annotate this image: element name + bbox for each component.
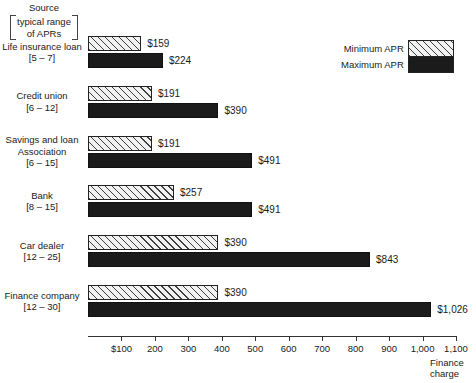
x-axis-tick: [423, 336, 424, 341]
bar-minimum-apr: [88, 136, 152, 151]
x-axis-tick: [289, 336, 290, 341]
bar-chart: Source typical range of APRs Life insura…: [0, 0, 476, 383]
bar-value-label: $191: [158, 136, 180, 151]
x-axis-tick-label: 600: [281, 343, 297, 355]
x-axis-tick: [356, 336, 357, 341]
bar-value-label: $843: [376, 252, 398, 267]
x-axis-title-line2: charge: [430, 368, 476, 379]
category-name: Savings and loan: [0, 134, 84, 146]
x-axis-tick: [222, 336, 223, 341]
legend-swatch-minimum-apr: [409, 41, 453, 57]
source-bracket-text: typical range of APRs: [16, 15, 72, 40]
source-title: Source: [0, 2, 88, 14]
category-label: Savings and loanAssociation[6 – 15]: [0, 134, 84, 169]
bar-value-label: $224: [169, 53, 191, 68]
category-name: Finance company: [0, 290, 84, 302]
x-axis-tick-label: 1,000: [411, 343, 435, 355]
x-axis-tick-label: 1,100: [444, 343, 468, 355]
x-axis-tick-label: 200: [147, 343, 163, 355]
x-axis-tick: [456, 336, 457, 341]
x-axis-tick-label: 300: [180, 343, 196, 355]
x-axis-tick: [121, 336, 122, 341]
x-axis-tick: [322, 336, 323, 341]
bar-minimum-apr: [88, 185, 174, 200]
legend: Minimum APR Maximum APR: [341, 40, 454, 73]
bar-value-label: $491: [258, 202, 280, 217]
legend-swatches: [408, 40, 454, 73]
x-axis-title: Finance charge: [430, 357, 476, 379]
category-label: Bank[8 – 15]: [0, 190, 84, 213]
bar-value-label: $191: [158, 86, 180, 101]
x-axis-tick-label: 400: [214, 343, 230, 355]
legend-label-minimum-apr: Minimum APR: [341, 41, 404, 57]
x-axis-title-line1: Finance: [430, 357, 476, 368]
x-axis-tick-label: 700: [314, 343, 330, 355]
bar-maximum-apr: [88, 103, 218, 118]
bar-maximum-apr: [88, 53, 163, 68]
bar-value-label: $159: [147, 36, 169, 51]
category-name: Car dealer: [0, 240, 84, 252]
bracket-right: [72, 15, 78, 40]
source-header: Source typical range of APRs: [0, 2, 88, 40]
category-label: Finance company[12 – 30]: [0, 290, 84, 313]
x-axis-tick-label: 900: [381, 343, 397, 355]
bar-minimum-apr: [88, 235, 218, 250]
category-apr-range: [12 – 30]: [0, 301, 84, 313]
bar-value-label: $390: [224, 285, 246, 300]
x-axis-tick-label: 500: [247, 343, 263, 355]
category-name: Bank: [0, 190, 84, 202]
bar-minimum-apr: [88, 285, 218, 300]
bar-minimum-apr: [88, 86, 152, 101]
category-apr-range: [6 – 12]: [0, 102, 84, 114]
bar-minimum-apr: [88, 36, 141, 51]
category-label: Credit union[6 – 12]: [0, 90, 84, 113]
x-axis-tick: [155, 336, 156, 341]
x-axis-tick: [188, 336, 189, 341]
bar-value-label: $390: [224, 235, 246, 250]
bar-value-label: $257: [180, 185, 202, 200]
x-axis-tick: [389, 336, 390, 341]
x-axis-line: [88, 336, 456, 337]
bar-value-label: $491: [258, 153, 280, 168]
legend-labels: Minimum APR Maximum APR: [341, 41, 404, 73]
category-label: Car dealer[12 – 25]: [0, 240, 84, 263]
plot-area: $159$224$191$390$191$491$257$491$390$843…: [88, 36, 476, 336]
category-apr-range: [5 – 7]: [0, 52, 84, 64]
category-name: Life insurance loan: [0, 41, 84, 53]
x-axis-tick-label: 800: [348, 343, 364, 355]
category-apr-range: [12 – 25]: [0, 251, 84, 263]
category-name: Association: [0, 146, 84, 158]
source-bracket-group: typical range of APRs: [0, 15, 88, 40]
category-apr-range: [8 – 15]: [0, 201, 84, 213]
source-bracket-line1: typical range: [17, 16, 71, 28]
source-bracket-line2: of APRs: [17, 28, 71, 40]
legend-label-maximum-apr: Maximum APR: [341, 57, 404, 73]
bar-maximum-apr: [88, 202, 252, 217]
x-axis-tick: [255, 336, 256, 341]
bar-value-label: $1,026: [437, 302, 468, 317]
bar-maximum-apr: [88, 302, 431, 317]
bar-maximum-apr: [88, 252, 370, 267]
x-axis-tick-label: $100: [111, 343, 132, 355]
legend-swatch-maximum-apr: [409, 57, 453, 72]
bar-maximum-apr: [88, 153, 252, 168]
bar-value-label: $390: [224, 103, 246, 118]
category-label: Life insurance loan[5 – 7]: [0, 41, 84, 64]
category-apr-range: [6 – 15]: [0, 157, 84, 169]
category-name: Credit union: [0, 90, 84, 102]
